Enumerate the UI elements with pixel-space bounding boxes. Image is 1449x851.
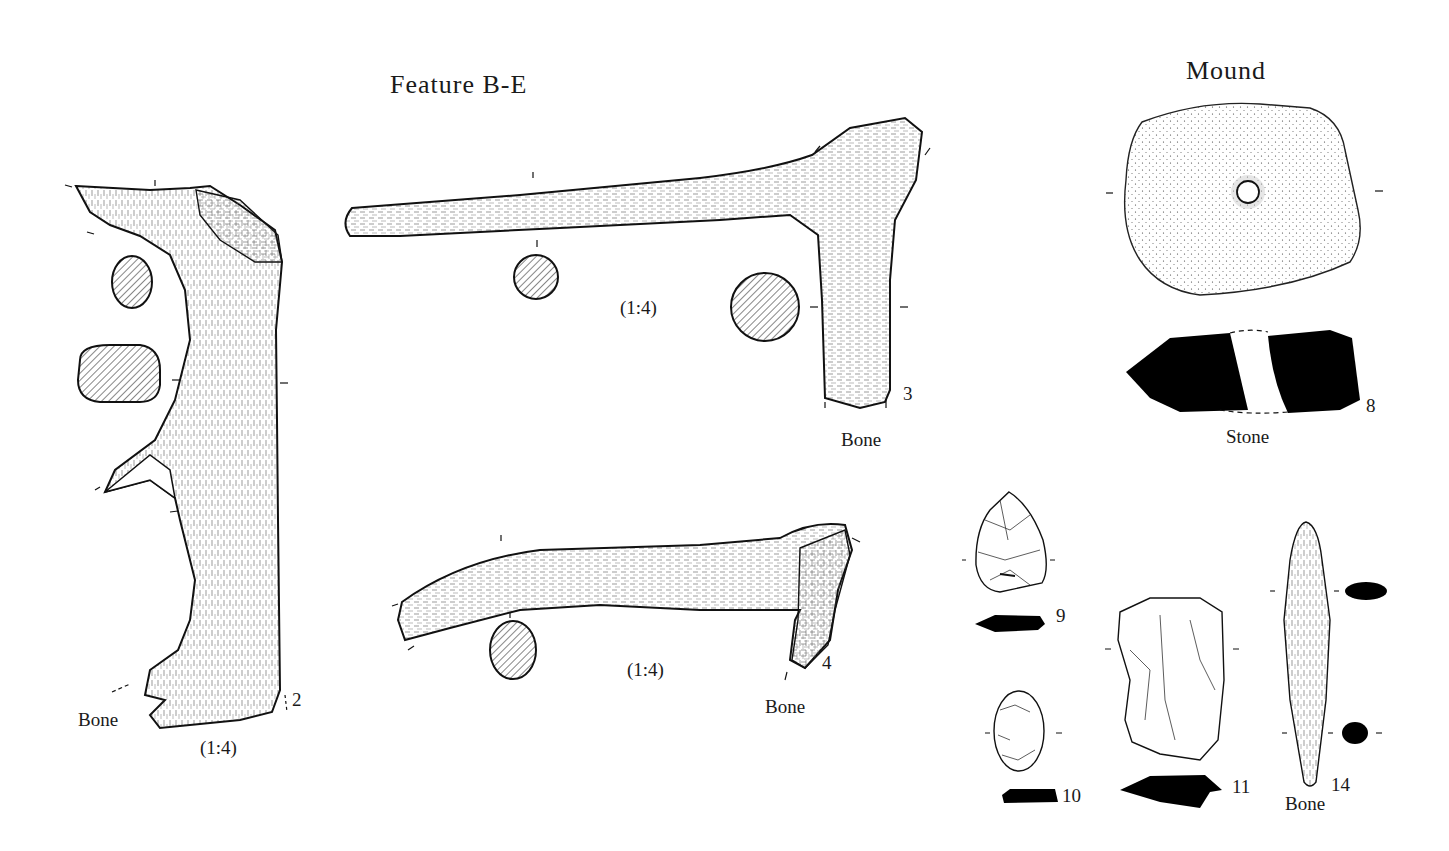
artifact-4-material: Bone [765, 697, 805, 716]
artifact-2-material: Bone [78, 710, 118, 729]
artifact-8-material: Stone [1226, 427, 1269, 446]
artifact-4-drawing [392, 524, 860, 680]
artifact-11-number: 11 [1232, 777, 1250, 796]
artifact-4-scale: (1:4) [627, 660, 664, 679]
artifact-3-number: 3 [903, 384, 913, 403]
artifact-2-number: 2 [292, 690, 302, 709]
artifact-2-drawing [65, 180, 288, 728]
artifact-4-number: 4 [822, 653, 832, 672]
artifact-10-number: 10 [1062, 786, 1081, 805]
artifact-3-drawing [345, 118, 930, 408]
artifact-10-drawing [985, 691, 1062, 803]
artifact-3-scale: (1:4) [620, 298, 657, 317]
artifact-8-drawing [1106, 103, 1383, 413]
artifact-14-material: Bone [1285, 794, 1325, 813]
artifact-2-scale: (1:4) [200, 738, 237, 757]
artifact-8-number: 8 [1366, 396, 1376, 415]
artifact-11-drawing [1105, 598, 1239, 808]
artifact-9-drawing [962, 492, 1055, 632]
artifact-14-number: 14 [1331, 775, 1350, 794]
artifact-3-material: Bone [841, 430, 881, 449]
artifact-9-number: 9 [1056, 606, 1066, 625]
artifact-14-drawing [1270, 522, 1387, 786]
